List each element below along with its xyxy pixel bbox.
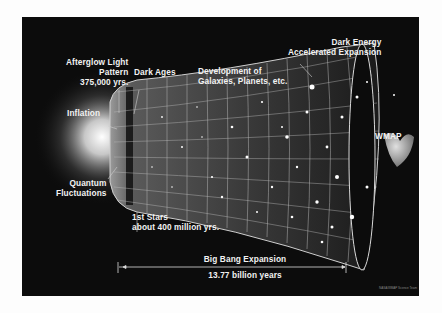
- afterglow-line2: Pattern: [66, 67, 128, 77]
- first-stars-line1: 1st Stars: [132, 212, 219, 222]
- first-stars-line2: about 400 million yrs.: [132, 222, 219, 232]
- dark-energy-label: Dark Energy Accelerated Expansion: [288, 37, 381, 57]
- afterglow-line3: 375,000 yrs.: [66, 77, 128, 87]
- quantum-line2: Fluctuations: [56, 188, 107, 198]
- development-line2: Galaxies, Planets, etc.: [198, 76, 287, 86]
- dark-energy-line1: Dark Energy: [288, 37, 381, 47]
- quantum-fluctuations-label: Quantum Fluctuations: [56, 178, 107, 198]
- quantum-line1: Quantum: [56, 178, 107, 188]
- afterglow-line1: Afterglow Light: [66, 57, 128, 67]
- dark-energy-line2: Accelerated Expansion: [288, 47, 381, 57]
- diagram-panel: Afterglow Light Pattern 375,000 yrs. Dar…: [22, 17, 419, 296]
- credit-text: NASA/WMAP Science Team: [379, 286, 417, 290]
- afterglow-label: Afterglow Light Pattern 375,000 yrs.: [66, 57, 128, 87]
- wmap-label: WMAP: [375, 131, 402, 141]
- dark-ages-label: Dark Ages: [134, 67, 176, 77]
- inflation-label: Inflation: [67, 108, 100, 118]
- development-line1: Development of: [198, 66, 287, 76]
- big-bang-expansion-label: Big Bang Expansion: [190, 254, 300, 264]
- first-stars-label: 1st Stars about 400 million yrs.: [132, 212, 219, 232]
- age-label: 13.77 billion years: [190, 270, 300, 280]
- development-label: Development of Galaxies, Planets, etc.: [198, 66, 287, 86]
